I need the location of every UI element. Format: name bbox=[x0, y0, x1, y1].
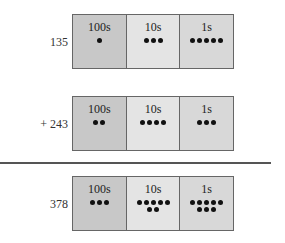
hundreds-cell: 100s bbox=[73, 177, 127, 230]
tens-cell: 10s bbox=[127, 97, 181, 150]
hundreds-heading: 100s bbox=[73, 21, 126, 34]
dots-group bbox=[189, 200, 225, 212]
counter-dot-icon bbox=[158, 38, 163, 43]
counter-dot-icon bbox=[190, 38, 195, 43]
counter-dot-icon bbox=[211, 38, 216, 43]
counter-dot-icon bbox=[190, 200, 195, 205]
counter-dot-icon bbox=[151, 200, 156, 205]
addend-row-1: 135 100s 10s 1s bbox=[0, 14, 285, 70]
ones-cell: 1s bbox=[180, 15, 233, 68]
dots-group bbox=[135, 120, 171, 125]
counter-dot-icon bbox=[165, 200, 170, 205]
counter-dot-icon bbox=[204, 200, 209, 205]
counter-dot-icon bbox=[197, 120, 202, 125]
row-number-label: 135 bbox=[50, 14, 68, 70]
hundreds-heading: 100s bbox=[73, 103, 126, 116]
tens-heading: 10s bbox=[127, 183, 180, 196]
row-number-label: + 243 bbox=[40, 96, 68, 152]
counter-dot-icon bbox=[204, 120, 209, 125]
counter-dot-icon bbox=[144, 38, 149, 43]
counter-dot-icon bbox=[137, 200, 142, 205]
counter-dot-icon bbox=[218, 38, 223, 43]
counter-dot-icon bbox=[151, 38, 156, 43]
counter-dot-icon bbox=[90, 200, 95, 205]
counter-dot-icon bbox=[147, 120, 152, 125]
counter-dot-icon bbox=[211, 200, 216, 205]
sum-divider-line bbox=[0, 162, 271, 164]
counter-dot-icon bbox=[158, 200, 163, 205]
ones-heading: 1s bbox=[180, 183, 233, 196]
ones-cell: 1s bbox=[180, 97, 233, 150]
counter-dot-icon bbox=[204, 207, 209, 212]
row-number-label: 378 bbox=[50, 176, 68, 232]
tens-cell: 10s bbox=[127, 177, 181, 230]
place-value-chart: 100s 10s 1s bbox=[72, 14, 234, 69]
tens-cell: 10s bbox=[127, 15, 181, 68]
counter-dot-icon bbox=[197, 207, 202, 212]
tens-heading: 10s bbox=[127, 21, 180, 34]
dots-group bbox=[81, 200, 117, 205]
dots-group bbox=[81, 38, 117, 43]
counter-dot-icon bbox=[144, 200, 149, 205]
counter-dot-icon bbox=[147, 207, 152, 212]
dots-group bbox=[189, 120, 225, 125]
counter-dot-icon bbox=[104, 200, 109, 205]
counter-dot-icon bbox=[211, 120, 216, 125]
counter-dot-icon bbox=[161, 120, 166, 125]
dots-group bbox=[81, 120, 117, 125]
tens-heading: 10s bbox=[127, 103, 180, 116]
place-value-chart: 100s 10s 1s bbox=[72, 176, 234, 231]
hundreds-cell: 100s bbox=[73, 15, 127, 68]
ones-cell: 1s bbox=[180, 177, 233, 230]
place-value-chart: 100s 10s 1s bbox=[72, 96, 234, 151]
counter-dot-icon bbox=[93, 120, 98, 125]
addend-row-2: + 243 100s 10s 1s bbox=[0, 96, 285, 152]
counter-dot-icon bbox=[97, 200, 102, 205]
counter-dot-icon bbox=[197, 38, 202, 43]
hundreds-heading: 100s bbox=[73, 183, 126, 196]
ones-heading: 1s bbox=[180, 21, 233, 34]
counter-dot-icon bbox=[100, 120, 105, 125]
dots-group bbox=[135, 200, 171, 212]
counter-dot-icon bbox=[197, 200, 202, 205]
hundreds-cell: 100s bbox=[73, 97, 127, 150]
dots-group bbox=[135, 38, 171, 43]
counter-dot-icon bbox=[154, 207, 159, 212]
counter-dot-icon bbox=[140, 120, 145, 125]
counter-dot-icon bbox=[154, 120, 159, 125]
sum-row: 378 100s 10s 1s bbox=[0, 176, 285, 232]
dots-group bbox=[189, 38, 225, 43]
counter-dot-icon bbox=[97, 38, 102, 43]
counter-dot-icon bbox=[204, 38, 209, 43]
counter-dot-icon bbox=[211, 207, 216, 212]
counter-dot-icon bbox=[218, 200, 223, 205]
ones-heading: 1s bbox=[180, 103, 233, 116]
